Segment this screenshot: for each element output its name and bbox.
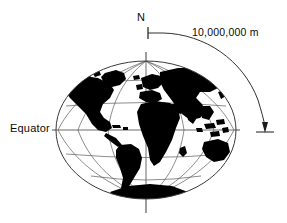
arc-distance-label: 10,000,000 m — [192, 26, 259, 38]
land-indonesia-b — [216, 119, 225, 125]
land-caribbean-b — [123, 127, 128, 130]
land-indonesia-a — [204, 123, 216, 129]
land-indonesia-c — [210, 131, 220, 137]
equator-label: Equator — [10, 122, 50, 134]
land-new-guinea — [222, 127, 229, 133]
land-indonesia-d — [196, 128, 203, 132]
land-caribbean-a — [112, 125, 121, 128]
north-pole-label: N — [137, 11, 145, 23]
land-british-isles — [136, 84, 143, 90]
